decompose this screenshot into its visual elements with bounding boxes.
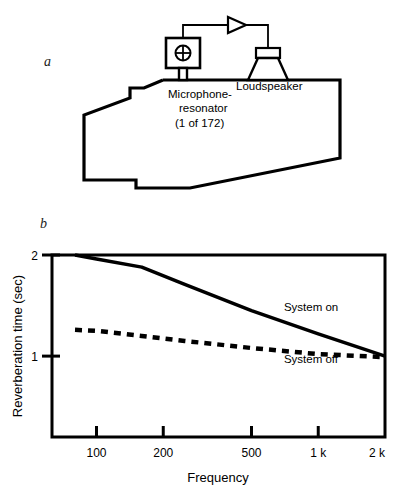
- x-tick-label-200: 200: [153, 446, 173, 460]
- x-tick-label-100: 100: [86, 446, 106, 460]
- y-tick-label-2: 2: [31, 249, 38, 263]
- figure-root: a Loudspeaker Microphone- re: [0, 0, 403, 492]
- x-axis-title: Frequency: [187, 470, 249, 485]
- amplifier-icon: [228, 17, 246, 33]
- wire-amplifier-to-loudspeaker: [246, 25, 268, 48]
- y-axis-title: Reverberation time (sec): [10, 275, 25, 417]
- loudspeaker-cone-icon: [248, 58, 288, 80]
- y-tick-label-1: 1: [31, 350, 38, 364]
- annotation-system-on: System on: [284, 301, 338, 313]
- wire-mic-to-amplifier: [183, 25, 228, 38]
- chart-svg: 12 1002005001 k2 k System onSystem off F…: [0, 210, 403, 492]
- x-tick-label-500: 500: [241, 446, 261, 460]
- loudspeaker-magnet: [256, 48, 280, 58]
- y-axis-tick-labels: 12: [31, 249, 38, 364]
- microphone-label-line3: (1 of 172): [175, 117, 224, 129]
- x-axis-tick-labels: 1002005001 k2 k: [86, 446, 386, 460]
- panel-a-schematic: a Loudspeaker Microphone- re: [0, 0, 403, 210]
- microphone-stem: [179, 68, 187, 80]
- panel-b-chart: b 12 1002005001 k2 k System onSystem off…: [0, 210, 403, 492]
- x-tick-label-1k: 1 k: [310, 446, 327, 460]
- annotation-system-off: System off: [284, 353, 339, 365]
- loudspeaker-label: Loudspeaker: [236, 80, 303, 92]
- x-tick-label-2k: 2 k: [369, 446, 386, 460]
- schematic-svg: Loudspeaker Microphone- resonator (1 of …: [0, 0, 403, 210]
- microphone-label-line1: Microphone-: [168, 88, 232, 100]
- microphone-label-line2: resonator: [179, 102, 228, 114]
